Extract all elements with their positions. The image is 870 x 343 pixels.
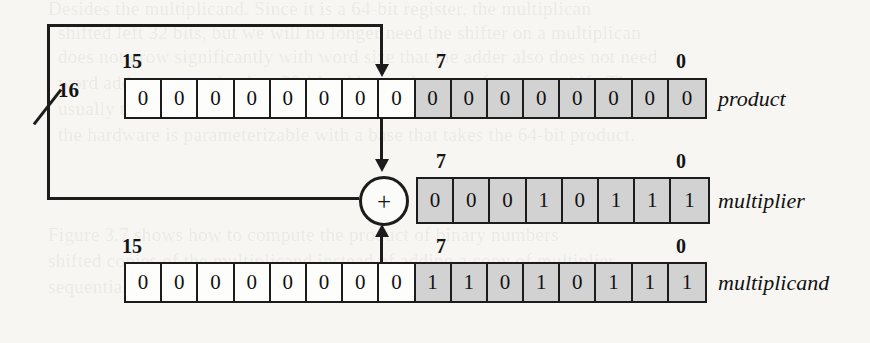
multiplicand-register-name: multiplicand (718, 270, 829, 296)
background-text-line: the hardware is parameterizable with a b… (58, 124, 635, 146)
background-text-line: does not grow significantly with word si… (58, 46, 658, 68)
product-bit-cell: 0 (307, 80, 343, 117)
multiplier-bit-cell: 0 (418, 179, 454, 222)
feedback-wire-into-product (380, 24, 383, 66)
multiplicand-bit-cell: 1 (416, 264, 452, 301)
product-bit-cell: 0 (379, 80, 415, 117)
product-bit-cell: 0 (524, 80, 560, 117)
multiplicand-bit-label-0: 0 (676, 235, 686, 258)
background-text-line: Desides the multiplicand. Since it is a … (48, 0, 591, 20)
product-bit-cell: 0 (162, 80, 198, 117)
product-bit-cell: 0 (416, 80, 452, 117)
multiplier-bit-cell: 1 (527, 179, 563, 222)
multiplier-bit-cell: 1 (635, 179, 671, 222)
multiplicand-bit-cell: 0 (235, 264, 271, 301)
feedback-wire-bottom (47, 197, 359, 200)
multiplicand-register: 0000000011010111 (124, 262, 707, 303)
multiplicand-bit-cell: 0 (488, 264, 524, 301)
multiplier-bit-cell: 0 (490, 179, 526, 222)
multiplicand-bit-cell: 0 (198, 264, 234, 301)
product-register: 0000000000000000 (124, 78, 707, 119)
product-bit-cell: 0 (126, 80, 162, 117)
multiplicand-bit-cell: 0 (126, 264, 162, 301)
product-to-adder-wire (380, 119, 383, 161)
product-bit-cell: 0 (198, 80, 234, 117)
product-bit-cell: 0 (343, 80, 379, 117)
product-bit-cell: 0 (669, 80, 705, 117)
multiplier-register-name: multiplier (718, 188, 805, 214)
multiplicand-bit-cell: 0 (343, 264, 379, 301)
multiplicand-bit-cell: 1 (452, 264, 488, 301)
arrow-into-adder-top-icon (375, 159, 389, 172)
multiplier-register: 00010111 (416, 177, 710, 224)
multiplicand-to-adder-wire (380, 236, 383, 263)
product-bit-label-15: 15 (122, 50, 142, 73)
multiplicand-bit-label-7: 7 (436, 235, 446, 258)
multiplier-bit-cell: 1 (671, 179, 707, 222)
feedback-wire-top (47, 24, 383, 27)
multiplicand-bit-label-15: 15 (122, 235, 142, 258)
multiplier-bit-cell: 1 (599, 179, 635, 222)
arrow-into-product-icon (375, 64, 389, 77)
multiplier-bit-cell: 0 (454, 179, 490, 222)
product-bit-cell: 0 (560, 80, 596, 117)
product-bit-cell: 0 (271, 80, 307, 117)
product-bit-cell: 0 (633, 80, 669, 117)
multiplicand-bit-cell: 0 (307, 264, 343, 301)
multiplier-bit-cell: 0 (563, 179, 599, 222)
multiplicand-bit-cell: 0 (162, 264, 198, 301)
product-bit-cell: 0 (452, 80, 488, 117)
adder-node[interactable]: + (359, 176, 409, 226)
multiplicand-bit-cell: 1 (524, 264, 560, 301)
adder-plus-symbol: + (377, 189, 391, 214)
product-bit-label-0: 0 (676, 50, 686, 73)
product-register-name: product (718, 86, 786, 112)
multiplicand-bit-cell: 1 (669, 264, 705, 301)
multiplier-bit-label-7: 7 (436, 150, 446, 173)
product-bit-cell: 0 (235, 80, 271, 117)
multiplier-bit-label-0: 0 (676, 150, 686, 173)
feedback-wire-left (47, 24, 50, 200)
product-bit-cell: 0 (596, 80, 632, 117)
multiplicand-bit-cell: 0 (560, 264, 596, 301)
product-bit-label-7: 7 (436, 50, 446, 73)
multiplicand-bit-cell: 0 (379, 264, 415, 301)
arrow-into-adder-bottom-icon (375, 224, 389, 237)
multiplicand-bit-cell: 1 (633, 264, 669, 301)
multiplicand-bit-cell: 1 (596, 264, 632, 301)
multiplicand-bit-cell: 0 (271, 264, 307, 301)
product-bit-cell: 0 (488, 80, 524, 117)
figure-canvas: Desides the multiplicand. Since it is a … (0, 0, 870, 343)
bus-width-label: 16 (58, 78, 79, 103)
